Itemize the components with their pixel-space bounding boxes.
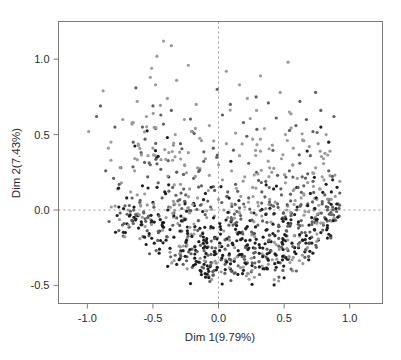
data-point <box>224 268 227 271</box>
data-point <box>260 190 263 193</box>
data-point <box>260 208 263 211</box>
data-point <box>179 214 182 217</box>
data-point <box>132 205 135 208</box>
data-point <box>319 150 322 153</box>
data-point <box>118 183 121 186</box>
data-point <box>321 200 324 203</box>
data-point <box>237 253 240 256</box>
data-point <box>263 127 266 130</box>
data-point <box>155 162 158 165</box>
data-point <box>129 213 132 216</box>
data-point <box>289 211 292 214</box>
data-point <box>162 221 165 224</box>
data-point <box>273 278 276 281</box>
data-point <box>151 104 154 107</box>
data-point <box>212 216 215 219</box>
data-point <box>273 241 276 244</box>
data-point <box>178 230 181 233</box>
data-point <box>250 257 253 260</box>
data-point <box>322 178 325 181</box>
data-point <box>293 250 296 253</box>
data-point <box>227 224 230 227</box>
data-point <box>175 216 178 219</box>
data-point <box>261 265 264 268</box>
data-point <box>315 196 318 199</box>
data-point <box>310 241 313 244</box>
data-point <box>221 178 224 181</box>
data-point <box>230 205 233 208</box>
data-point <box>144 220 147 223</box>
data-point <box>132 141 135 144</box>
data-point <box>293 187 296 190</box>
data-point <box>281 255 284 258</box>
data-point <box>335 202 338 205</box>
data-point <box>277 261 280 264</box>
data-point <box>203 226 206 229</box>
data-point <box>183 218 186 221</box>
data-point <box>288 169 291 172</box>
data-point <box>308 145 311 148</box>
data-point <box>264 180 267 183</box>
data-point <box>292 147 295 150</box>
data-point <box>164 192 167 195</box>
data-point <box>140 223 143 226</box>
data-point <box>202 150 205 153</box>
data-point <box>154 142 157 145</box>
data-point <box>154 154 157 157</box>
data-point <box>207 270 210 273</box>
data-point <box>247 196 250 199</box>
data-point <box>270 204 273 207</box>
data-point <box>277 237 280 240</box>
data-point <box>282 212 285 215</box>
data-point <box>268 186 271 189</box>
data-point <box>237 249 240 252</box>
data-point <box>260 181 263 184</box>
data-point <box>121 223 124 226</box>
data-point <box>113 204 116 207</box>
data-point <box>119 211 122 214</box>
data-point <box>220 270 223 273</box>
data-point <box>283 233 286 236</box>
data-point <box>234 131 237 134</box>
data-point <box>321 175 324 178</box>
data-point <box>132 216 135 219</box>
data-point <box>317 142 320 145</box>
data-point <box>239 214 242 217</box>
data-point <box>267 175 270 178</box>
data-point <box>152 112 155 115</box>
data-point <box>253 173 256 176</box>
data-point <box>256 172 259 175</box>
data-point <box>241 272 244 275</box>
data-point <box>146 186 149 189</box>
data-point <box>303 256 306 259</box>
data-point <box>199 244 202 247</box>
data-point <box>301 132 304 135</box>
y-tick-label: 1.0 <box>34 53 49 65</box>
data-point <box>229 160 232 163</box>
data-point <box>136 193 139 196</box>
data-point <box>282 220 285 223</box>
data-point <box>306 204 309 207</box>
data-point <box>234 271 237 274</box>
data-point <box>166 174 169 177</box>
data-point <box>247 278 250 281</box>
data-point <box>257 204 260 207</box>
data-point <box>268 147 271 150</box>
data-point <box>185 171 188 174</box>
data-point <box>277 224 280 227</box>
data-point <box>280 193 283 196</box>
data-point <box>174 133 177 136</box>
data-point <box>153 126 156 129</box>
data-point <box>182 187 185 190</box>
data-point <box>311 252 314 255</box>
data-point <box>164 216 167 219</box>
data-point <box>273 283 276 286</box>
data-point <box>202 235 205 238</box>
data-point <box>308 250 311 253</box>
data-point <box>161 196 164 199</box>
data-point <box>334 195 337 198</box>
data-point <box>251 138 254 141</box>
data-point <box>185 210 188 213</box>
data-point <box>242 265 245 268</box>
data-point <box>309 192 312 195</box>
